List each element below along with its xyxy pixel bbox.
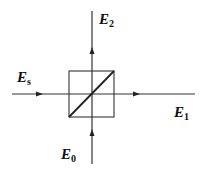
label-e-1: E1 (173, 104, 189, 122)
arrow-up-icon (90, 129, 95, 136)
arrow-right-icon (133, 92, 140, 97)
label-e-s: Es (16, 69, 31, 87)
arrow-up-icon (90, 47, 95, 54)
arrow-right-icon (36, 92, 43, 97)
beam-splitter-diagram: Es E2 E1 E0 (0, 0, 206, 176)
label-e-0: E0 (60, 146, 76, 164)
label-e-2: E2 (98, 11, 114, 29)
